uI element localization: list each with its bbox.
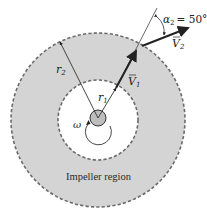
v2-label: V2	[172, 37, 185, 51]
alpha-label: α2= 50°	[163, 13, 207, 27]
impeller-region-label: Impeller region	[66, 171, 132, 182]
omega-label: ω	[73, 119, 81, 130]
impeller-diagram: r2 r1 V1 V2 α2= 50° ω Impeller region	[0, 0, 207, 216]
